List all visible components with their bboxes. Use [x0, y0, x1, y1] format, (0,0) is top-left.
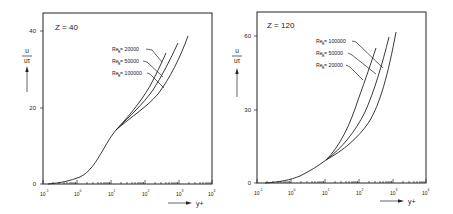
svg-text:3: 3 [396, 188, 398, 192]
svg-text:1: 1 [114, 189, 116, 193]
right-title: Z = 120 [267, 21, 295, 30]
curve-re-50000 [116, 43, 178, 130]
curve-re-20000 [116, 53, 166, 130]
left-x-tick-labels: 10-1 100 101 102 103 104 [40, 189, 216, 197]
label-re-20000: Re = 20000 [112, 46, 139, 52]
left-y-arrow-icon [25, 66, 28, 92]
svg-text:4: 4 [428, 188, 430, 192]
right-xlabel: y+ [408, 198, 416, 206]
right-ytick-60: 60 [244, 33, 251, 39]
right-series-labels: Re = 100000 B Re = 50000 B Re = 20000 B [316, 38, 346, 70]
right-ylabel-numerator: u [235, 47, 239, 54]
svg-text:3: 3 [182, 189, 184, 193]
left-x-arrow-icon [168, 201, 192, 204]
left-ytick-40: 40 [29, 28, 36, 34]
left-xlabel: y+ [196, 200, 204, 208]
right-ytick-0: 0 [248, 180, 252, 186]
svg-text:-1: -1 [260, 188, 263, 192]
svg-text:0: 0 [80, 189, 82, 193]
right-x-tick-labels: 10-1 100 101 102 103 104 [254, 188, 430, 196]
label-re-100000: Re = 100000 [112, 70, 142, 76]
svg-text:4: 4 [214, 189, 216, 193]
right-y-arrow-icon [235, 68, 238, 97]
right-x-arrow-icon [380, 199, 404, 202]
right-plot: 0 30 60 u uτ 10-1 100 101 102 103 104 [232, 12, 430, 206]
left-title: Z = 40 [55, 23, 78, 32]
left-plot: 0 20 40 u uτ 10-1 100 101 102 103 [22, 13, 216, 208]
right-ytick-30: 30 [244, 107, 251, 113]
svg-text:1: 1 [328, 188, 330, 192]
label-re-50000: Re = 50000 [112, 58, 139, 64]
left-ylabel-numerator: u [25, 47, 29, 54]
label-re-20000: Re = 20000 [316, 62, 343, 68]
label-re-100000: Re = 100000 [316, 38, 346, 44]
left-ylabel-denominator: uτ [24, 57, 31, 64]
svg-text:-1: -1 [46, 189, 49, 193]
svg-text:2: 2 [362, 188, 364, 192]
left-series-labels: Re = 20000 B Re = 50000 B Re = 100000 B [112, 46, 142, 78]
right-ylabel-denominator: uτ [234, 57, 241, 64]
label-re-50000: Re = 50000 [316, 50, 343, 56]
svg-text:2: 2 [148, 189, 150, 193]
left-ytick-0: 0 [33, 181, 37, 187]
left-ytick-20: 20 [29, 105, 36, 111]
svg-text:0: 0 [294, 188, 296, 192]
figure: 0 20 40 u uτ 10-1 100 101 102 103 [0, 0, 453, 214]
